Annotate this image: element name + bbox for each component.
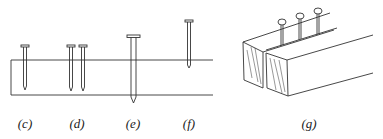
label-d: (d)	[62, 116, 92, 132]
block-nail-2-icon	[296, 13, 304, 40]
block-nail-3-icon	[314, 8, 322, 35]
label-f: (f)	[174, 116, 204, 132]
block-nail-1-icon	[278, 19, 286, 46]
wood-blocks-icon	[243, 13, 373, 96]
label-e: (e)	[118, 116, 148, 132]
label-g: (g)	[294, 116, 324, 132]
label-c: (c)	[10, 116, 40, 132]
nail-c-icon	[21, 45, 29, 90]
nail-e-icon	[127, 35, 140, 103]
nail-d1-icon	[67, 45, 75, 91]
nail-f-icon	[185, 20, 193, 68]
nail-d2-icon	[79, 45, 87, 91]
board-cross-section	[11, 60, 213, 95]
